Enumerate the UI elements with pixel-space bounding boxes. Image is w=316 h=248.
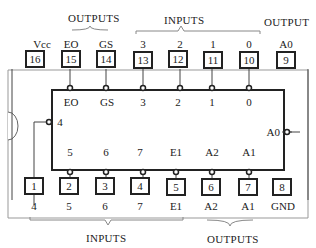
top-inputs-group-label: INPUTS xyxy=(164,14,204,26)
pin-9: 9 xyxy=(276,51,296,69)
pin6-label: A2 xyxy=(200,200,222,212)
pin3-label: 6 xyxy=(97,200,113,212)
pin2-label: 5 xyxy=(61,200,77,212)
inner-e1-label: E1 xyxy=(166,146,186,158)
pin16-label: Vcc xyxy=(28,38,56,50)
pin7-label: A1 xyxy=(237,200,259,212)
bottom-inputs-group-label: INPUTS xyxy=(86,232,126,244)
pin12-label: 2 xyxy=(170,38,190,50)
inner-a2-label: A2 xyxy=(200,146,224,158)
pin-5: 5 xyxy=(166,178,186,196)
pin-12: 12 xyxy=(168,50,188,68)
pin-8: 8 xyxy=(272,178,292,196)
inner-gs-label: GS xyxy=(96,96,118,108)
pin1-label: 4 xyxy=(26,200,42,212)
pin9-label: A0 xyxy=(276,38,296,50)
pin-2: 2 xyxy=(59,177,79,195)
pin8-label: GND xyxy=(268,200,298,212)
pin-6: 6 xyxy=(201,178,221,196)
pin-3: 3 xyxy=(95,177,115,195)
pin11-label: 1 xyxy=(203,38,223,50)
inner-input5-label: 5 xyxy=(63,146,77,158)
inner-input2-label: 2 xyxy=(171,96,185,108)
inner-eo-label: EO xyxy=(60,96,82,108)
inner-input1-label: 1 xyxy=(205,96,219,108)
inner-a0-label: A0 xyxy=(252,126,280,138)
inner-input6-label: 6 xyxy=(99,146,113,158)
inner-a1-label: A1 xyxy=(237,146,261,158)
pin-16: 16 xyxy=(25,50,45,68)
pin-13: 13 xyxy=(133,51,153,69)
pin-15: 15 xyxy=(61,50,81,68)
inner-input3-label: 3 xyxy=(136,96,150,108)
inner-input4-label: 4 xyxy=(54,116,66,128)
top-output-group-label: OUTPUT xyxy=(264,16,309,28)
inner-input0-label: 0 xyxy=(242,96,256,108)
bottom-outputs-group-label: OUTPUTS xyxy=(207,233,259,245)
pin13-label: 3 xyxy=(133,38,153,50)
pin-14: 14 xyxy=(96,50,116,68)
pin-1: 1 xyxy=(24,177,44,195)
pin15-label: EO xyxy=(61,38,81,50)
pin-7: 7 xyxy=(238,178,258,196)
pin-4: 4 xyxy=(130,177,150,195)
inner-input7-label: 7 xyxy=(133,146,147,158)
pin10-label: 0 xyxy=(239,38,259,50)
pin14-label: GS xyxy=(96,38,116,50)
pin-10: 10 xyxy=(239,51,259,69)
top-outputs-group-label: OUTPUTS xyxy=(68,12,120,24)
pin4-label: 7 xyxy=(132,200,148,212)
pin5-label: E1 xyxy=(165,200,187,212)
pin-11: 11 xyxy=(203,51,223,69)
